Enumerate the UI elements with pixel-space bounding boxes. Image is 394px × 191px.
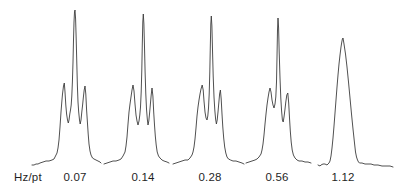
spectrum-trace-0.56 <box>246 18 311 163</box>
figure: Hz/pt 0.07 0.14 0.28 0.56 1.12 <box>0 0 394 191</box>
spectrum-trace-0.14 <box>104 14 169 164</box>
spectrum-trace-0.28 <box>173 16 244 164</box>
spectra-plot <box>0 0 394 191</box>
spectrum-trace-0.07 <box>32 10 101 165</box>
spectrum-trace-1.12 <box>318 38 393 167</box>
